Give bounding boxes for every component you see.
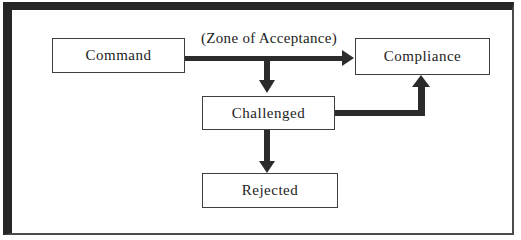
node-command: Command	[52, 38, 185, 73]
slide-frame: Command (Zone of Acceptance) Compliance …	[3, 2, 514, 235]
arrow-branch-to-challenged-head-icon	[259, 80, 275, 93]
arrow-challenged-to-rejected-line	[264, 130, 270, 161]
node-rejected: Rejected	[202, 173, 338, 208]
arrow-branch-to-challenged-line	[264, 56, 270, 80]
node-command-label: Command	[86, 47, 152, 64]
arrow-challenged-to-compliance-vertical-line	[418, 87, 425, 116]
diagram-canvas: Command (Zone of Acceptance) Compliance …	[12, 10, 512, 233]
node-compliance-label: Compliance	[384, 48, 461, 65]
node-challenged: Challenged	[202, 96, 335, 130]
zone-of-acceptance-label: (Zone of Acceptance)	[191, 30, 347, 47]
node-challenged-label: Challenged	[232, 105, 305, 122]
arrow-command-to-compliance-head-icon	[342, 50, 354, 66]
node-rejected-label: Rejected	[242, 182, 298, 199]
arrow-challenged-to-compliance-horizontal-line	[335, 110, 425, 116]
arrow-challenged-to-compliance-head-icon	[412, 75, 430, 87]
arrow-challenged-to-rejected-head-icon	[259, 161, 275, 173]
node-compliance: Compliance	[355, 38, 490, 75]
